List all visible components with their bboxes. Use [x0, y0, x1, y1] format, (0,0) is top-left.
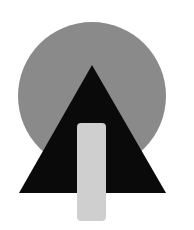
logo-graphic: [0, 0, 194, 230]
light-gray-rectangle-shape: [77, 123, 106, 221]
